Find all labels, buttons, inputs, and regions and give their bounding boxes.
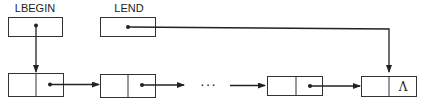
list-node-1 [9,74,100,97]
null-symbol: Λ [398,80,408,94]
list-node-2 [101,75,185,98]
lbegin-label: LBEGIN [15,2,55,14]
lend-label: LEND [114,2,143,14]
ellipsis: ··· [200,76,217,92]
list-node-last: Λ [362,77,417,97]
linked-list-diagram: LBEGIN LEND ··· Λ [0,0,425,105]
lend-arrow [128,27,389,72]
lend-pointer: LEND [101,2,390,72]
lbegin-pointer: LBEGIN [9,2,63,72]
list-node-n-minus-1 [268,77,361,96]
